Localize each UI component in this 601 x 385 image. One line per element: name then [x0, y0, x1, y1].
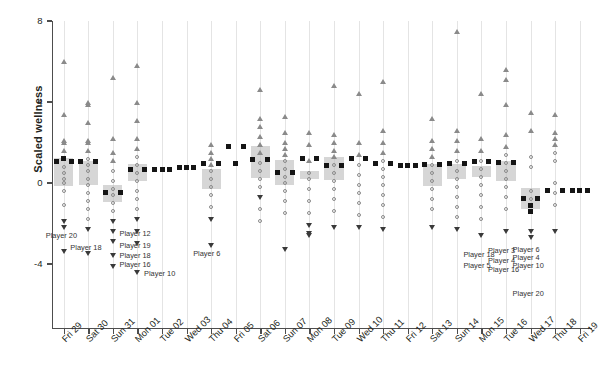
point-circle: [504, 161, 508, 165]
mean-marker: [437, 162, 442, 167]
mean-marker: [535, 196, 540, 201]
point-triangle-up-icon: [282, 114, 288, 119]
point-triangle-down-icon: [61, 219, 67, 224]
point-triangle-down-icon: [61, 225, 67, 230]
point-triangle-down-icon: [85, 251, 91, 256]
point-circle: [381, 183, 385, 187]
mean-marker: [545, 188, 550, 193]
point-triangle-up-icon: [528, 110, 534, 115]
point-circle: [430, 187, 434, 191]
point-circle: [307, 187, 311, 191]
point-circle: [455, 169, 459, 173]
point-circle: [135, 197, 139, 201]
y-tick-mark: [47, 101, 52, 102]
mean-marker: [496, 160, 501, 165]
point-triangle-up-icon: [208, 156, 214, 161]
point-triangle-down-icon: [454, 227, 460, 232]
mean-marker: [462, 161, 467, 166]
annotation-label: Player 10: [513, 261, 544, 270]
point-circle: [332, 163, 336, 167]
point-triangle-up-icon: [503, 77, 509, 82]
y-axis-title: Scaled wellness: [32, 69, 44, 189]
point-triangle-up-icon: [61, 59, 67, 64]
point-triangle-down-icon: [208, 217, 214, 222]
point-circle: [111, 169, 115, 173]
point-triangle-up-icon: [429, 116, 435, 121]
point-triangle-up-icon: [478, 148, 484, 153]
point-triangle-down-icon: [110, 229, 116, 234]
y-tick-mark: [47, 182, 52, 183]
mean-marker: [142, 167, 147, 172]
point-circle: [332, 179, 336, 183]
mean-marker: [585, 188, 590, 193]
annotation-label: Player 16: [119, 260, 150, 269]
point-triangle-up-icon: [208, 150, 214, 155]
point-square: [61, 156, 66, 161]
point-triangle-up-icon: [208, 162, 214, 167]
point-circle: [381, 203, 385, 207]
point-circle: [529, 197, 533, 201]
point-circle: [283, 211, 287, 215]
point-triangle-up-icon: [257, 87, 263, 92]
point-triangle-up-icon: [257, 124, 263, 129]
point-circle: [357, 163, 361, 167]
point-circle: [332, 171, 336, 175]
mean-marker: [314, 156, 319, 161]
point-circle: [357, 183, 361, 187]
point-circle: [209, 205, 213, 209]
point-triangle-up-icon: [306, 158, 312, 163]
annotation-label: Player 5: [463, 261, 490, 270]
point-triangle-up-icon: [356, 91, 362, 96]
point-triangle-down-icon: [134, 270, 140, 275]
point-circle: [209, 193, 213, 197]
mean-marker: [265, 157, 270, 162]
point-circle: [307, 211, 311, 215]
mean-marker: [570, 188, 575, 193]
y-tick-label: -4: [12, 258, 43, 269]
point-circle: [553, 181, 557, 185]
point-triangle-down-icon: [503, 229, 509, 234]
point-circle: [258, 219, 262, 223]
gridline: [113, 21, 114, 328]
point-triangle-down-icon: [306, 233, 312, 238]
point-triangle-up-icon: [478, 91, 484, 96]
point-circle: [381, 215, 385, 219]
y-tick-label: 8: [12, 15, 43, 26]
point-circle: [135, 155, 139, 159]
point-triangle-up-icon: [61, 148, 67, 153]
point-triangle-down-icon: [478, 233, 484, 238]
point-triangle-up-icon: [380, 140, 386, 145]
point-circle: [553, 191, 557, 195]
annotation-label: Player 19: [119, 241, 150, 250]
point-circle: [504, 195, 508, 199]
point-triangle-up-icon: [552, 142, 558, 147]
point-triangle-down-icon: [110, 253, 116, 258]
mean-marker: [398, 163, 403, 168]
point-triangle-down-icon: [331, 225, 337, 230]
mean-marker: [241, 144, 246, 149]
mean-marker: [521, 196, 526, 201]
point-triangle-down-icon: [110, 264, 116, 269]
point-triangle-up-icon: [528, 128, 534, 133]
mean-marker: [275, 170, 280, 175]
mean-marker: [177, 165, 182, 170]
point-triangle-up-icon: [331, 148, 337, 153]
mean-marker: [167, 167, 172, 172]
gridline: [531, 21, 532, 328]
mean-marker: [54, 159, 59, 164]
point-circle: [111, 187, 115, 191]
point-circle: [504, 169, 508, 173]
point-circle: [307, 177, 311, 181]
mean-marker: [422, 162, 427, 167]
mean-marker: [560, 188, 565, 193]
point-circle: [62, 203, 66, 207]
point-triangle-down-icon: [528, 235, 534, 240]
point-circle: [553, 159, 557, 163]
mean-marker: [191, 165, 196, 170]
point-circle: [86, 207, 90, 211]
gridline: [187, 21, 188, 328]
point-triangle-down-icon: [552, 229, 558, 234]
point-triangle-down-icon: [429, 225, 435, 230]
point-circle: [529, 165, 533, 169]
point-circle: [86, 191, 90, 195]
